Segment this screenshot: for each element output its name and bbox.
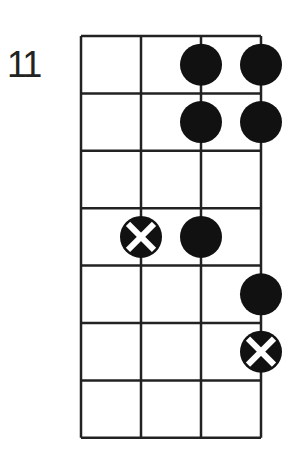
finger-dot <box>240 273 282 315</box>
finger-dot <box>240 101 282 143</box>
finger-dot <box>180 216 222 258</box>
finger-dot <box>180 44 222 86</box>
fretboard-diagram <box>0 0 291 450</box>
finger-dot <box>240 44 282 86</box>
finger-dot <box>180 101 222 143</box>
